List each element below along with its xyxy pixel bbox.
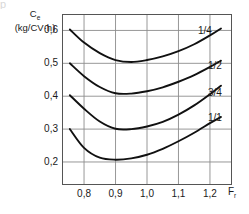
y-tick-label: 0,5 <box>30 58 58 68</box>
x-tick-label: 0,9 <box>100 189 132 199</box>
curve-label-3-4: 3/4 <box>208 88 222 98</box>
plot-svg <box>62 14 232 185</box>
plot-area <box>62 14 232 185</box>
x-tick-label: 1,2 <box>194 189 226 199</box>
gridlines <box>62 14 232 185</box>
y-tick-label: 0,2 <box>30 157 58 167</box>
y-tick-label: 0,3 <box>30 124 58 134</box>
curve-1-1 <box>70 117 221 160</box>
x-axis-tick-labels: 0,80,91,01,11,2 <box>62 189 232 203</box>
y-axis-tick-labels: 0,20,30,40,50,6 <box>26 0 58 214</box>
curve-label-1-4: 1/4 <box>198 26 212 36</box>
y-tick-label: 0,4 <box>30 91 58 101</box>
x-tick-label: 0,8 <box>68 189 100 199</box>
curve-label-1-2: 1/2 <box>208 61 222 71</box>
chart-figure: p Ce (kg/CV·h) Fr 0,20,30,40,50,6 0,80,9… <box>0 0 249 214</box>
x-axis-title-subscript: r <box>234 192 236 199</box>
curve-label-1-1: 1/1 <box>208 113 222 123</box>
x-tick-label: 1,1 <box>162 189 194 199</box>
y-tick-label: 0,6 <box>30 25 58 35</box>
curve-1-2 <box>70 61 221 94</box>
x-tick-label: 1,0 <box>131 189 163 199</box>
data-curves <box>70 28 221 159</box>
